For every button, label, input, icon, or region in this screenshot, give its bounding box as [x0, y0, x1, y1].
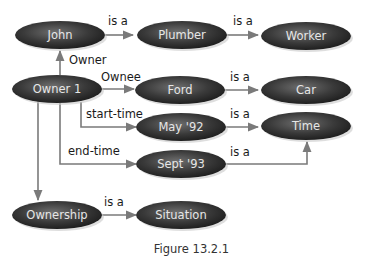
- node-label: Owner 1: [33, 82, 82, 96]
- edge-label-ford-car: is a: [230, 70, 250, 84]
- node-may92: May '92: [136, 113, 228, 143]
- node-label: Ford: [167, 83, 192, 97]
- node-label: Plumber: [158, 28, 206, 42]
- figure-caption: Figure 13.2.1: [0, 242, 367, 256]
- node-label: Ownership: [26, 208, 87, 222]
- node-ford: Ford: [135, 76, 227, 106]
- node-situation: Situation: [136, 201, 228, 231]
- node-plumber: Plumber: [137, 21, 229, 51]
- node-label: John: [46, 28, 72, 42]
- nodes: John Plumber Worker Owner 1 Ford Car: [12, 21, 353, 231]
- node-ownership: Ownership: [12, 201, 104, 231]
- node-label: May '92: [158, 120, 203, 134]
- edge-label-may92-time: is a: [230, 107, 250, 121]
- node-owner1: Owner 1: [12, 75, 104, 105]
- edge-label-ownership-situation: is a: [104, 195, 124, 209]
- edge-label-owner: Owner: [69, 53, 107, 67]
- edge-label-ownee: Ownee: [101, 70, 141, 84]
- node-worker: Worker: [261, 22, 353, 52]
- edge-label-john-plumber: is a: [108, 14, 128, 28]
- node-john: John: [15, 21, 107, 51]
- node-label: Car: [296, 83, 316, 97]
- node-sept93: Sept '93: [136, 150, 228, 180]
- node-car: Car: [261, 76, 353, 106]
- node-label: Worker: [286, 29, 327, 43]
- node-label: Situation: [155, 208, 206, 222]
- node-label: Time: [291, 119, 320, 133]
- semantic-network-diagram: is a is a Owner Ownee is a start-time is…: [0, 0, 367, 258]
- edge-label-sept93-time: is a: [230, 145, 250, 159]
- edge-label-end-time: end-time: [68, 144, 120, 158]
- node-time: Time: [261, 112, 353, 142]
- node-label: Sept '93: [157, 157, 205, 171]
- edge-label-start-time: start-time: [86, 107, 143, 121]
- edge-label-plumber-worker: is a: [233, 14, 253, 28]
